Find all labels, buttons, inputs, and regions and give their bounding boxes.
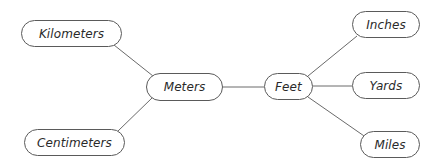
edge-feet-miles: [308, 97, 367, 138]
edge-kilometers-meters: [114, 45, 153, 76]
node-centimeters: Centimeters: [24, 129, 125, 156]
node-inches: Inches: [352, 11, 420, 38]
node-meters: Meters: [146, 73, 223, 101]
node-yards: Yards: [352, 72, 420, 99]
node-feet: Feet: [264, 73, 313, 100]
edge-centimeters-meters: [118, 98, 152, 131]
unit-conversion-diagram: Kilometers Centimeters Meters Feet Inche…: [0, 0, 440, 166]
node-kilometers: Kilometers: [21, 20, 122, 47]
edge-feet-inches: [308, 36, 357, 76]
node-miles: Miles: [360, 131, 420, 158]
